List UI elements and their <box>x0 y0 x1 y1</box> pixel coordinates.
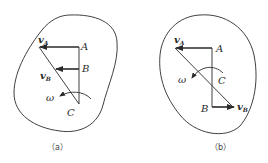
label-vA-b: vA <box>174 34 185 46</box>
label-omega-b: ω <box>178 74 186 85</box>
angular-velocity-arc-a <box>60 92 91 99</box>
figure-b: vA A ω C B vB （b） <box>160 15 256 152</box>
label-vB-a: vB <box>40 70 51 82</box>
caption-a: （a） <box>47 143 68 152</box>
label-point-B-b: B <box>200 103 208 114</box>
label-point-A-b: A <box>215 43 223 54</box>
caption-b: （b） <box>210 143 231 152</box>
figure-a: vA A vB B ω C （a） <box>14 15 117 152</box>
label-vA-a: vA <box>38 34 49 46</box>
label-point-C-b: C <box>218 75 226 86</box>
label-point-A-a: A <box>80 41 88 52</box>
rigid-body-outline-b <box>160 15 256 134</box>
diagram-canvas: vA A vB B ω C （a） vA A ω C B vB （b） <box>0 0 268 163</box>
label-vB-b: vB <box>237 101 248 113</box>
label-omega-a: ω <box>46 92 54 103</box>
label-point-C-a: C <box>67 107 75 118</box>
rigid-body-outline-a <box>14 15 117 132</box>
label-point-B-a: B <box>81 63 89 74</box>
